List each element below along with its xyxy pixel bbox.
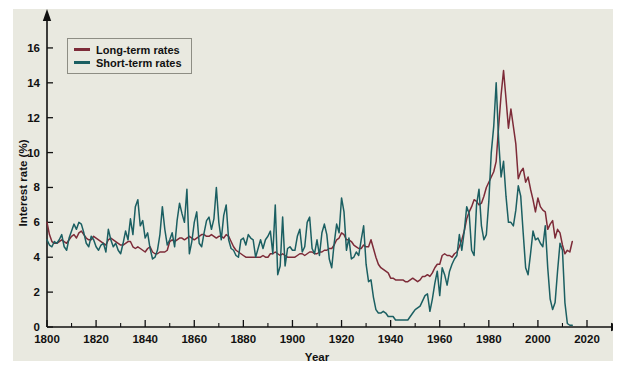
svg-text:8: 8 xyxy=(34,181,41,193)
svg-text:0: 0 xyxy=(34,321,40,333)
svg-text:Year: Year xyxy=(305,351,330,361)
svg-text:1860: 1860 xyxy=(181,333,207,345)
svg-text:2: 2 xyxy=(34,286,40,298)
svg-text:1820: 1820 xyxy=(83,333,109,345)
svg-text:1840: 1840 xyxy=(132,333,158,345)
svg-text:16: 16 xyxy=(27,42,40,54)
svg-text:2020: 2020 xyxy=(574,333,600,345)
svg-text:1800: 1800 xyxy=(34,333,60,345)
svg-text:6: 6 xyxy=(34,216,40,228)
legend-item-long-term: Long-term rates xyxy=(74,43,182,56)
svg-text:1880: 1880 xyxy=(231,333,257,345)
svg-text:4: 4 xyxy=(34,251,41,263)
legend-item-short-term: Short-term rates xyxy=(74,56,182,69)
svg-text:1960: 1960 xyxy=(427,333,453,345)
series-short-term-rates xyxy=(47,83,572,325)
chart-legend: Long-term rates Short-term rates xyxy=(67,38,192,74)
legend-swatch-long-term xyxy=(74,48,90,51)
svg-text:Interest rate (%): Interest rate (%) xyxy=(17,139,29,226)
svg-text:10: 10 xyxy=(27,147,40,159)
chart-root: 0246810121416180018201840186018801900192… xyxy=(0,0,626,374)
svg-text:12: 12 xyxy=(27,112,40,124)
legend-label-long-term: Long-term rates xyxy=(96,44,180,56)
series-long-term-rates xyxy=(47,71,572,282)
svg-text:1920: 1920 xyxy=(329,333,355,345)
svg-text:1900: 1900 xyxy=(280,333,306,345)
legend-label-short-term: Short-term rates xyxy=(96,57,182,69)
legend-swatch-short-term xyxy=(74,61,90,64)
svg-text:14: 14 xyxy=(27,77,40,89)
svg-text:1940: 1940 xyxy=(378,333,404,345)
svg-text:1980: 1980 xyxy=(476,333,502,345)
svg-text:2000: 2000 xyxy=(525,333,551,345)
